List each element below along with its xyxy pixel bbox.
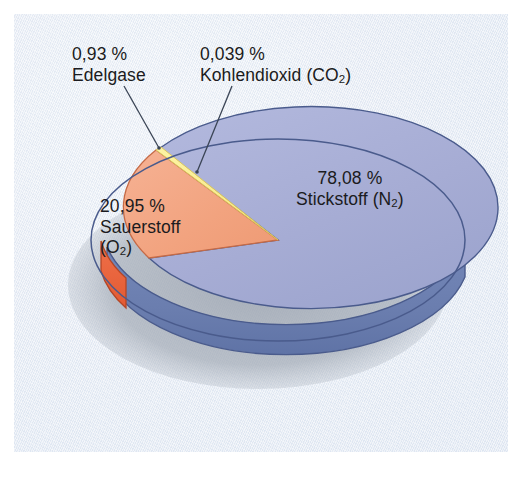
label-sauerstoff: 20,95 % Sauerstoff (O2)	[100, 196, 180, 258]
label-sauerstoff-percent: 20,95 %	[100, 196, 180, 217]
label-kohlendioxid-name: Kohlendioxid (CO2)	[200, 65, 351, 86]
label-stickstoff-name-post: )	[398, 189, 404, 209]
label-sauerstoff-formula: (O2)	[100, 237, 180, 258]
label-stickstoff-name-pre: Stickstoff (N	[296, 189, 391, 209]
label-stickstoff: 78,08 % Stickstoff (N2)	[296, 168, 404, 209]
label-edelgase-name: Edelgase	[72, 65, 146, 86]
label-kohlendioxid: 0,039 % Kohlendioxid (CO2)	[200, 44, 351, 85]
leader-endpoint-kohlendioxid	[195, 170, 199, 174]
label-sauerstoff-name: Sauerstoff	[100, 217, 180, 238]
leader-line-edelgase	[124, 86, 159, 148]
label-kohlendioxid-percent: 0,039 %	[200, 44, 351, 65]
label-edelgase-percent: 0,93 %	[72, 44, 146, 65]
pie-chart-figure: 0,93 % Edelgase 0,039 % Kohlendioxid (CO…	[0, 0, 522, 479]
label-sauerstoff-formula-pre: (O	[100, 237, 120, 257]
label-kohlendioxid-name-pre: Kohlendioxid (CO	[200, 65, 339, 85]
label-kohlendioxid-name-post: )	[345, 65, 351, 85]
label-edelgase: 0,93 % Edelgase	[72, 44, 146, 85]
leader-endpoint-edelgase	[157, 146, 161, 150]
label-stickstoff-percent: 78,08 %	[296, 168, 404, 189]
label-stickstoff-name: Stickstoff (N2)	[296, 189, 404, 210]
label-sauerstoff-formula-post: )	[126, 237, 132, 257]
